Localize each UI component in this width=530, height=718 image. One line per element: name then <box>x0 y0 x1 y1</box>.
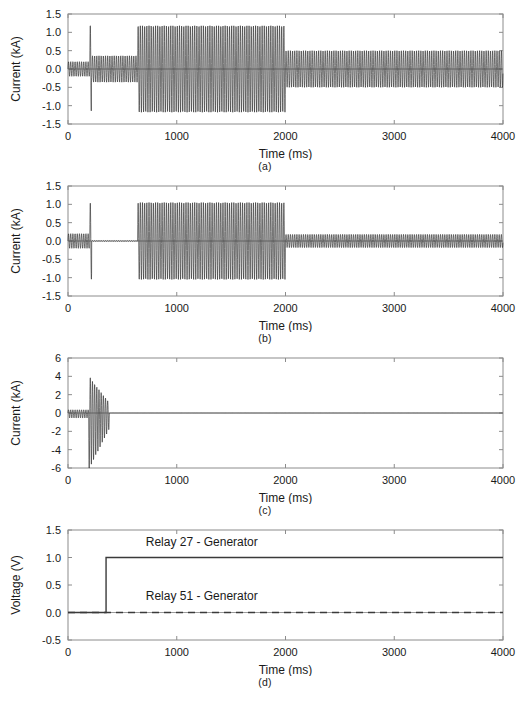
y-axis-title: Current (kA) <box>9 208 23 273</box>
y-tick-label: -4 <box>51 444 61 456</box>
y-tick-label: -0.5 <box>42 81 61 93</box>
x-tick-label: 0 <box>65 302 71 314</box>
x-tick-label: 3000 <box>382 474 406 486</box>
x-axis-title: Time (ms) <box>259 147 313 160</box>
y-tick-label: 2 <box>55 389 61 401</box>
plot-b: -1.5-1.0-0.50.00.51.01.50100020003000400… <box>0 172 530 332</box>
x-tick-label: 0 <box>65 646 71 658</box>
y-axis-title: Current (kA) <box>9 380 23 445</box>
x-tick-label: 0 <box>65 130 71 142</box>
series-line-1 <box>68 558 503 613</box>
plot-d: -0.50.00.51.01.501000200030004000Time (m… <box>0 516 530 676</box>
y-tick-label: 1.0 <box>46 552 61 564</box>
series-annotation-2: Relay 51 - Generator <box>146 589 258 603</box>
x-tick-label: 1000 <box>165 302 189 314</box>
x-tick-label: 4000 <box>491 130 515 142</box>
panel-caption-c: (c) <box>0 504 530 516</box>
y-tick-label: 4 <box>55 370 61 382</box>
y-tick-label: 1.5 <box>46 524 61 536</box>
x-tick-label: 2000 <box>273 646 297 658</box>
x-tick-label: 3000 <box>382 302 406 314</box>
x-tick-label: 1000 <box>165 130 189 142</box>
y-tick-label: -6 <box>51 462 61 474</box>
plot-a: -1.5-1.0-0.50.00.51.01.50100020003000400… <box>0 0 530 160</box>
y-tick-label: -1.0 <box>42 272 61 284</box>
y-tick-label: 0.5 <box>46 217 61 229</box>
x-tick-label: 0 <box>65 474 71 486</box>
plot-frame <box>68 530 503 640</box>
x-tick-label: 1000 <box>165 474 189 486</box>
y-tick-label: 0.0 <box>46 63 61 75</box>
x-tick-label: 3000 <box>382 130 406 142</box>
x-axis-title: Time (ms) <box>259 319 313 332</box>
figure-container: -1.5-1.0-0.50.00.51.01.50100020003000400… <box>0 0 530 718</box>
y-tick-label: 1.0 <box>46 198 61 210</box>
x-tick-label: 2000 <box>273 474 297 486</box>
y-tick-label: 1.0 <box>46 26 61 38</box>
y-tick-label: 1.5 <box>46 8 61 20</box>
x-axis-title: Time (ms) <box>259 663 313 676</box>
panel-d: -0.50.00.51.01.501000200030004000Time (m… <box>0 516 530 688</box>
y-tick-label: -1.0 <box>42 100 61 112</box>
y-tick-label: -1.5 <box>42 290 61 302</box>
y-tick-label: 0.0 <box>46 235 61 247</box>
y-axis-title: Current (kA) <box>9 36 23 101</box>
y-tick-label: 0.5 <box>46 579 61 591</box>
waveform-trace <box>68 378 503 468</box>
waveform-trace <box>68 203 503 280</box>
x-axis-title: Time (ms) <box>259 491 313 504</box>
x-tick-label: 2000 <box>273 130 297 142</box>
panel-caption-b: (b) <box>0 332 530 344</box>
x-tick-label: 4000 <box>491 474 515 486</box>
y-tick-label: -2 <box>51 425 61 437</box>
panel-caption-a: (a) <box>0 160 530 172</box>
y-tick-label: 0.5 <box>46 45 61 57</box>
series-annotation-1: Relay 27 - Generator <box>146 535 258 549</box>
y-tick-label: -1.5 <box>42 118 61 130</box>
panel-b: -1.5-1.0-0.50.00.51.01.50100020003000400… <box>0 172 530 344</box>
plot-c: -6-4-2024601000200030004000Time (ms)Curr… <box>0 344 530 504</box>
x-tick-label: 2000 <box>273 302 297 314</box>
x-tick-label: 4000 <box>491 646 515 658</box>
y-tick-label: 6 <box>55 352 61 364</box>
y-axis-title: Voltage (V) <box>9 555 23 614</box>
y-tick-label: -0.5 <box>42 253 61 265</box>
panel-caption-d: (d) <box>0 676 530 688</box>
waveform-trace <box>68 26 503 113</box>
y-tick-label: -0.5 <box>42 634 61 646</box>
panel-a: -1.5-1.0-0.50.00.51.01.50100020003000400… <box>0 0 530 172</box>
x-tick-label: 3000 <box>382 646 406 658</box>
y-tick-label: 1.5 <box>46 180 61 192</box>
x-tick-label: 4000 <box>491 302 515 314</box>
y-tick-label: 0.0 <box>46 607 61 619</box>
y-tick-label: 0 <box>55 407 61 419</box>
panel-c: -6-4-2024601000200030004000Time (ms)Curr… <box>0 344 530 516</box>
x-tick-label: 1000 <box>165 646 189 658</box>
